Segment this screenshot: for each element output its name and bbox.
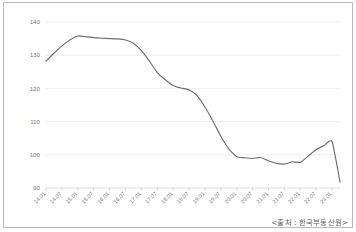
y-axis-tick-labels: 90100110120130140 xyxy=(30,18,41,191)
y-axis-tick-label: 100 xyxy=(30,151,41,158)
x-axis-tick-label: 16.01 xyxy=(96,190,110,204)
line-chart-svg: 90100110120130140 14.0114.0715.0115.0716… xyxy=(0,0,356,232)
x-axis-tick-label: 21.01 xyxy=(255,190,269,204)
y-axis-tick-label: 120 xyxy=(30,85,41,92)
x-axis-tick-label: 15.07 xyxy=(80,190,94,204)
x-axis-tick-labels: 14.0114.0715.0115.0716.0116.0717.0117.07… xyxy=(33,190,333,204)
x-axis-tick-label: 18.07 xyxy=(176,190,190,204)
x-axis-tick-label: 14.01 xyxy=(33,190,47,204)
x-axis-tick-label: 18.01 xyxy=(160,190,174,204)
x-axis-tick-marks xyxy=(46,188,332,191)
x-axis-tick-label: 22.01 xyxy=(287,190,301,204)
x-axis-tick-label: 22.07 xyxy=(303,190,317,204)
x-axis-tick-label: 19.01 xyxy=(191,190,205,204)
chart-figure: 90100110120130140 14.0114.0715.0115.0716… xyxy=(0,0,356,232)
y-axis-tick-label: 90 xyxy=(33,184,40,191)
x-axis-tick-label: 17.07 xyxy=(144,190,158,204)
x-axis-tick-label: 16.07 xyxy=(112,190,126,204)
source-attribution: <출처 : 한국부동산원> xyxy=(271,216,348,227)
x-axis-tick-label: 21.07 xyxy=(271,190,285,204)
gridlines-group xyxy=(46,22,340,188)
x-axis-tick-label: 15.01 xyxy=(64,190,78,204)
x-axis-tick-label: 17.01 xyxy=(128,190,142,204)
x-axis-tick-label: 23.01 xyxy=(319,190,333,204)
data-series-line xyxy=(46,36,340,182)
x-axis-tick-label: 20.07 xyxy=(239,190,253,204)
y-axis-tick-label: 110 xyxy=(30,118,40,125)
plot-area: 90100110120130140 14.0114.0715.0115.0716… xyxy=(0,0,356,232)
y-axis-tick-label: 130 xyxy=(30,51,41,58)
x-axis-tick-label: 19.07 xyxy=(207,190,221,204)
y-axis-tick-label: 140 xyxy=(30,18,41,25)
x-axis-tick-label: 14.07 xyxy=(48,190,62,204)
x-axis-tick-label: 20.01 xyxy=(223,190,237,204)
